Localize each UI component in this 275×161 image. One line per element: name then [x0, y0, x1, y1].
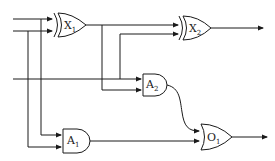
gate-a1: A1	[63, 129, 199, 153]
input-wires	[13, 19, 141, 147]
logic-circuit-diagram: X1 X2 A2 A1 O1	[0, 0, 275, 161]
wire-in2-a1	[28, 31, 61, 147]
wire-in3-x2	[120, 34, 178, 79]
gate-x1: X1	[54, 13, 86, 37]
gate-letter: O	[207, 131, 216, 144]
wire-a2-o1	[167, 85, 199, 131]
gate-index: 2	[197, 29, 201, 37]
xor-back-arc	[179, 16, 183, 40]
gate-index: 2	[154, 85, 158, 93]
gate-index: 1	[72, 26, 76, 34]
gate-index: 1	[75, 141, 79, 149]
wire-x1-a2	[102, 25, 141, 90]
gate-index: 1	[216, 138, 220, 146]
gate-x2: X2	[179, 16, 263, 40]
gate-a2: A2	[143, 74, 199, 131]
gate-o1: O1	[201, 124, 267, 150]
gate-letter: X	[189, 22, 197, 35]
gate-letter: X	[64, 19, 72, 32]
xor-back-arc	[54, 13, 58, 37]
or-body	[201, 124, 232, 150]
